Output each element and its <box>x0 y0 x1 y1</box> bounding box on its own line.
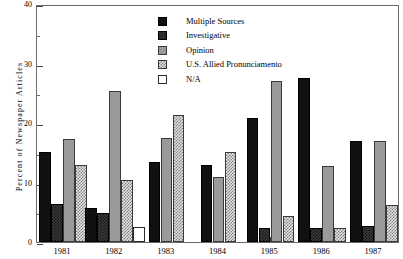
y-tick-major <box>37 6 43 7</box>
chart-legend: Multiple SourcesInvestigativeOpinionU.S.… <box>158 14 282 87</box>
legend-swatch-icon <box>158 60 167 69</box>
bar <box>173 115 185 242</box>
x-tick-label: 1987 <box>343 247 403 256</box>
bar <box>386 205 398 242</box>
legend-label: Opinion <box>186 46 214 55</box>
bar <box>271 81 283 242</box>
legend-label: Multiple Sources <box>186 17 244 26</box>
y-tick-major <box>37 66 43 67</box>
y-tick-label: 40 <box>2 1 32 9</box>
bar <box>298 78 310 242</box>
bar <box>161 138 173 242</box>
plot-area: Multiple SourcesInvestigativeOpinionU.S.… <box>36 5 399 243</box>
y-tick-label: 0 <box>2 239 32 247</box>
bar <box>350 141 362 242</box>
legend-item: Opinion <box>158 43 282 58</box>
legend-label: Investigative <box>186 31 230 40</box>
bar <box>121 180 133 242</box>
bar <box>109 91 121 242</box>
legend-swatch-icon <box>158 46 167 55</box>
y-tick-label: 10 <box>2 180 32 188</box>
legend-swatch-icon <box>158 31 167 40</box>
legend-swatch-icon <box>158 17 167 26</box>
bar <box>310 228 322 242</box>
y-tick-minor <box>37 95 40 96</box>
y-tick-major <box>37 244 43 245</box>
legend-swatch-icon <box>158 75 167 84</box>
bar <box>85 208 97 243</box>
bar <box>39 152 51 242</box>
bar <box>97 213 109 242</box>
y-tick-minor <box>37 36 40 37</box>
bar <box>362 226 374 242</box>
bar-chart: Percent of Newspaper Articles Multiple S… <box>0 0 403 259</box>
bar <box>334 228 346 242</box>
legend-item: Investigative <box>158 29 282 44</box>
bar <box>63 139 75 242</box>
y-tick-label: 20 <box>2 120 32 128</box>
bar <box>149 162 161 242</box>
y-tick-label: 30 <box>2 61 32 69</box>
legend-label: U.S. Allied Pronunciamento <box>186 60 282 69</box>
bar <box>259 228 271 242</box>
bar <box>201 165 213 242</box>
legend-label: N/A <box>186 75 201 84</box>
legend-item: Multiple Sources <box>158 14 282 29</box>
bar <box>225 152 237 242</box>
bar <box>283 216 295 242</box>
bar <box>322 166 334 242</box>
bar <box>247 118 259 242</box>
bar <box>213 177 225 242</box>
y-tick-major <box>37 125 43 126</box>
legend-item: N/A <box>158 72 282 87</box>
bar <box>133 227 145 242</box>
legend-item: U.S. Allied Pronunciamento <box>158 58 282 73</box>
bar <box>374 141 386 242</box>
bar <box>51 204 63 242</box>
